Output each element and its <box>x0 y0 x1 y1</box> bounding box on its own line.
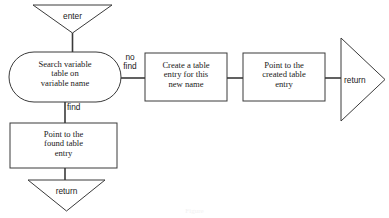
search-process-node[interactable] <box>9 52 121 102</box>
return-right-terminal[interactable] <box>341 38 385 121</box>
return-bottom-terminal[interactable] <box>28 180 105 211</box>
flowchart-canvas: enter Search variable table on variable … <box>0 0 389 218</box>
create-entry-node[interactable] <box>145 53 227 101</box>
point-created-node[interactable] <box>243 53 325 101</box>
point-found-node[interactable] <box>10 123 117 168</box>
enter-terminal[interactable] <box>33 5 112 33</box>
